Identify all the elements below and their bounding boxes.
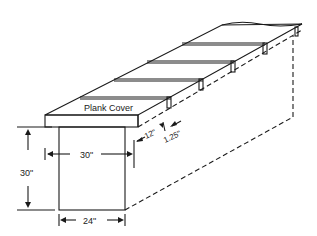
plank-cover-label: Plank Cover: [84, 103, 133, 113]
plank-cover-top: [45, 24, 302, 115]
pier-front: [59, 127, 125, 210]
width-30-label: 30": [80, 150, 93, 160]
gap-label: 1.25": [162, 129, 183, 145]
spacing-label: 12": [143, 128, 158, 141]
bench-diagram: Plank Cover 30" 30" 24" 12" 1.25": [0, 0, 317, 236]
width-24-label: 24": [83, 216, 96, 226]
height-30-label: 30": [20, 168, 33, 178]
plank-cover-front: [45, 115, 138, 127]
